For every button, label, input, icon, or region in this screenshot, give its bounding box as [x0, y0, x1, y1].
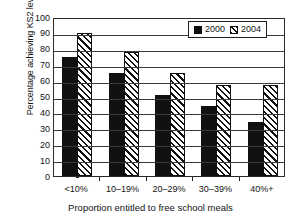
bar-group	[248, 19, 278, 176]
y-tick-label: 90	[26, 29, 50, 38]
x-axis-tick-labels: <10%10–19%20–29%30–39%40%+	[53, 184, 285, 196]
chart-legend: 2000 2004	[188, 21, 267, 38]
y-tick-mark	[76, 177, 79, 178]
x-tick-mark	[192, 177, 193, 181]
x-tick-mark	[99, 177, 100, 181]
bars-layer	[54, 19, 284, 176]
bar-2000-30–39%[interactable]	[201, 106, 216, 176]
gridline	[54, 67, 284, 68]
gridline	[54, 83, 284, 84]
gridline	[54, 99, 284, 100]
x-tick-label: 20–29%	[146, 184, 192, 194]
hatched-square-icon	[230, 26, 238, 34]
y-tick-label: 60	[26, 77, 50, 86]
legend-item-2004[interactable]: 2004	[230, 25, 261, 34]
y-tick-label: 100	[26, 14, 50, 23]
bar-2004-<10%[interactable]	[77, 33, 92, 176]
gridline	[54, 162, 284, 163]
gridline	[54, 114, 284, 115]
y-tick-label: 80	[26, 45, 50, 54]
bar-2000-10–19%[interactable]	[109, 73, 124, 176]
y-tick-label: 10	[26, 157, 50, 166]
bar-group	[109, 19, 139, 176]
y-tick-label: 30	[26, 125, 50, 134]
y-axis-ticks: 0102030405060708090100	[26, 14, 50, 181]
gridline	[54, 130, 284, 131]
bar-2000-<10%[interactable]	[62, 57, 77, 176]
gridline	[54, 146, 284, 147]
solid-square-icon	[194, 26, 202, 34]
bar-2000-20–29%[interactable]	[155, 95, 170, 176]
bar-group	[62, 19, 92, 176]
y-tick-label: 0	[26, 173, 50, 182]
x-axis-title: Proportion entitled to free school meals	[0, 202, 301, 213]
x-tick-label: <10%	[53, 184, 99, 194]
gridline	[54, 51, 284, 52]
plot-area	[53, 18, 285, 177]
y-tick-label: 70	[26, 61, 50, 70]
y-tick-label: 50	[26, 93, 50, 102]
legend-label-2004: 2004	[241, 25, 261, 34]
legend-label-2000: 2000	[205, 25, 225, 34]
x-tick-mark	[146, 177, 147, 181]
y-tick-label: 40	[26, 109, 50, 118]
legend-item-2000[interactable]: 2000	[194, 25, 225, 34]
x-tick-label: 40%+	[239, 184, 285, 194]
x-tick-mark	[239, 177, 240, 181]
x-tick-label: 30–39%	[192, 184, 238, 194]
bar-chart: Percentage achieving KS2 level 4+ 010203…	[0, 0, 301, 219]
y-tick-label: 20	[26, 141, 50, 150]
bar-group	[201, 19, 231, 176]
bar-group	[155, 19, 185, 176]
x-tick-label: 10–19%	[99, 184, 145, 194]
bar-2004-20–29%[interactable]	[170, 73, 185, 176]
